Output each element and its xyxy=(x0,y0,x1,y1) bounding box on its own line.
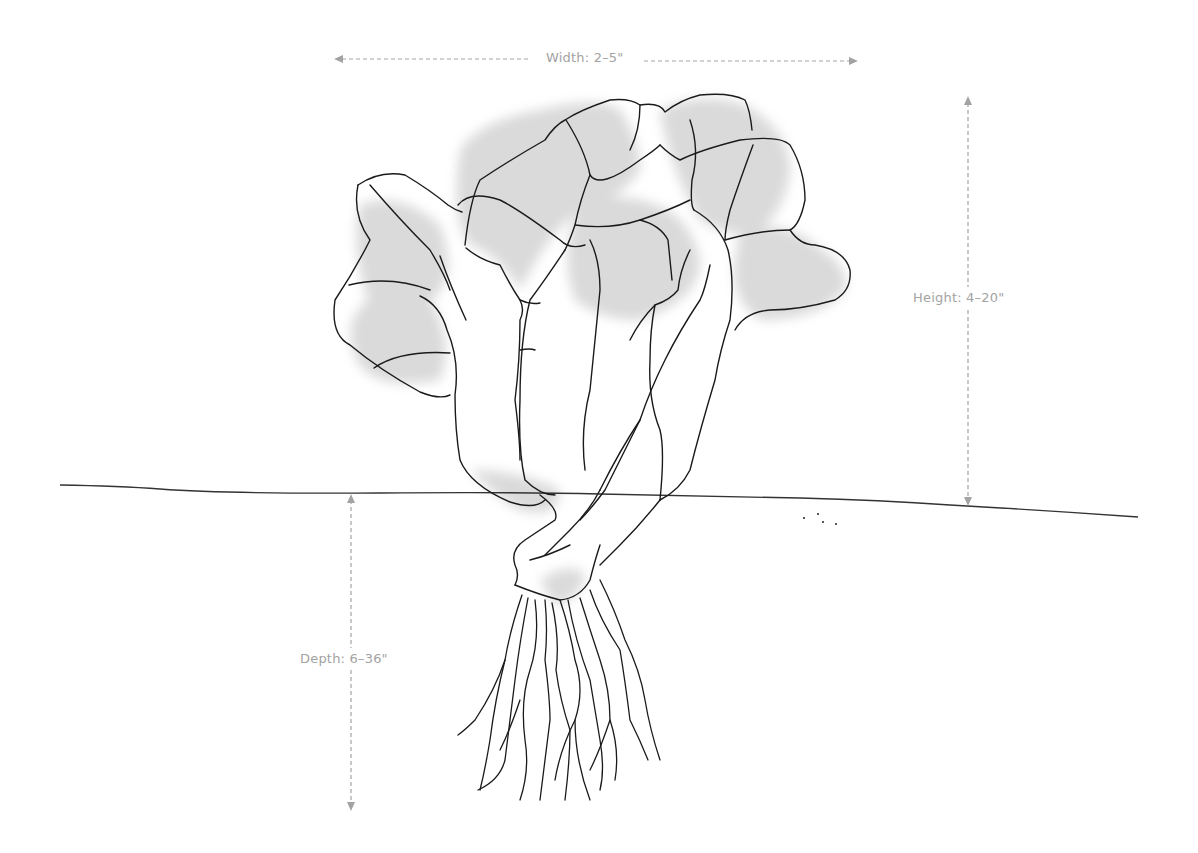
plant-dimension-diagram: Width: 2–5" Height: 4–20" Depth: 6–36" xyxy=(0,0,1198,853)
dimension-lines xyxy=(342,59,968,805)
arrow-left-icon xyxy=(334,55,343,63)
depth-label: Depth: 6–36" xyxy=(296,651,392,666)
arrow-down-icon xyxy=(964,497,972,506)
diagram-canvas xyxy=(0,0,1198,853)
arrow-up-icon xyxy=(964,96,972,105)
arrow-right-icon xyxy=(849,57,858,65)
roots xyxy=(458,580,660,800)
arrow-up-icon xyxy=(347,494,355,503)
width-label: Width: 2–5" xyxy=(542,50,628,65)
arrow-down-icon xyxy=(347,802,355,811)
soil-line xyxy=(60,485,1138,517)
dimension-arrowheads xyxy=(334,55,972,811)
leaf-shading xyxy=(350,99,845,605)
height-label: Height: 4–20" xyxy=(909,290,1008,305)
soil-specks xyxy=(803,513,837,525)
